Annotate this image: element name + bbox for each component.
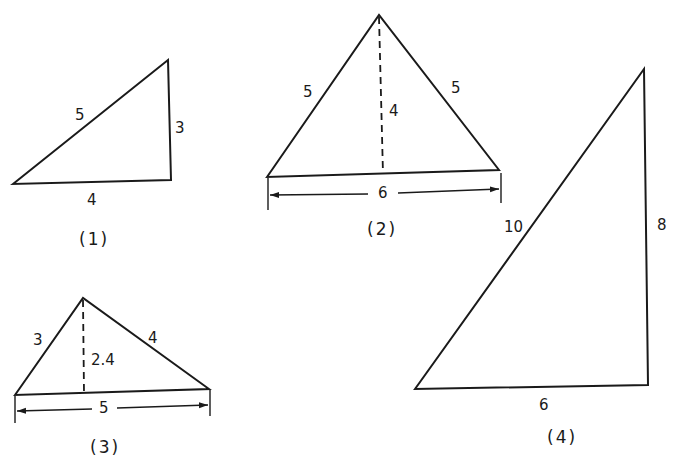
triangles-diagram: 5 3 4 (1) 5 4 5 6 (2) 3 2.4 4 5 (3) 10: [0, 0, 674, 468]
triangle-3-right-label: 4: [148, 329, 158, 347]
dimension-arrow-left: [270, 194, 368, 195]
triangle-2-left-label: 5: [303, 83, 313, 101]
triangle-2-altitude: [379, 17, 383, 174]
triangle-4-vertical-label: 8: [657, 216, 667, 234]
triangle-3-shape: [15, 298, 209, 395]
triangle-3-altitude: [83, 300, 84, 393]
figure-2-caption: (2): [367, 219, 397, 239]
figure-4-caption: (4): [547, 427, 577, 447]
dimension-arrow-left: [17, 409, 92, 411]
figure-2: 5 4 5 6 (2): [267, 15, 501, 239]
triangle-1-shape: [13, 60, 171, 184]
triangle-1-base-label: 4: [87, 191, 97, 209]
triangle-4-shape: [415, 69, 648, 389]
figure-1: 5 3 4 (1): [13, 60, 185, 249]
figure-4: 10 8 6 (4): [415, 69, 667, 447]
triangle-3-base-label: 5: [99, 399, 109, 417]
triangle-3-left-label: 3: [33, 331, 43, 349]
figure-1-caption: (1): [79, 229, 109, 249]
triangle-4-hypotenuse-label: 10: [504, 218, 523, 236]
figure-3: 3 2.4 4 5 (3): [15, 298, 210, 457]
triangle-2-altitude-label: 4: [389, 102, 399, 120]
dimension-arrow-right: [398, 189, 499, 193]
dimension-arrow-right: [117, 405, 208, 408]
figure-3-caption: (3): [90, 437, 120, 457]
triangle-4-base-label: 6: [539, 396, 549, 414]
triangle-3-altitude-label: 2.4: [91, 351, 115, 369]
triangle-1-vertical-label: 3: [175, 119, 185, 137]
triangle-2-base-label: 6: [378, 184, 388, 202]
triangle-1-hypotenuse-label: 5: [75, 106, 85, 124]
triangle-2-right-label: 5: [451, 79, 461, 97]
